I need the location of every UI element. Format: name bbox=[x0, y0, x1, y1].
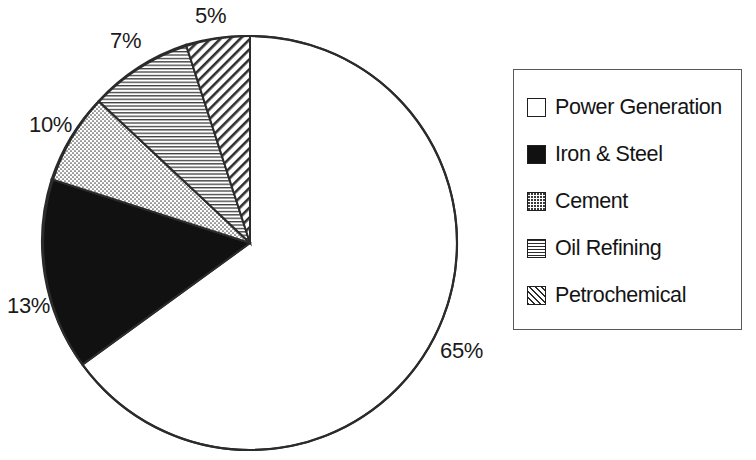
slice-label-oil-refining: 7% bbox=[110, 28, 141, 54]
pie-chart-figure: 5% 7% 10% 13% 65% Power Generation Iron … bbox=[0, 0, 756, 460]
legend-swatch-cement-icon bbox=[527, 192, 546, 211]
legend-swatch-iron-steel-icon bbox=[527, 145, 546, 164]
legend-item-cement[interactable]: Cement bbox=[527, 178, 741, 225]
legend-item-iron-steel[interactable]: Iron & Steel bbox=[527, 131, 741, 178]
legend-swatch-oil-refining-icon bbox=[527, 239, 546, 258]
legend-label-iron-steel: Iron & Steel bbox=[555, 142, 663, 167]
legend-label-petrochemical: Petrochemical bbox=[555, 283, 686, 308]
legend-item-list: Power Generation Iron & Steel Cement Oil… bbox=[514, 70, 741, 329]
legend-label-power-generation: Power Generation bbox=[555, 95, 722, 120]
legend-label-cement: Cement bbox=[555, 189, 628, 214]
legend: Power Generation Iron & Steel Cement Oil… bbox=[513, 69, 742, 330]
legend-swatch-power-generation-icon bbox=[527, 98, 546, 117]
slice-label-petrochemical: 5% bbox=[195, 3, 226, 29]
legend-item-petrochemical[interactable]: Petrochemical bbox=[527, 272, 741, 319]
legend-item-power-generation[interactable]: Power Generation bbox=[527, 84, 741, 131]
slice-label-cement: 10% bbox=[29, 112, 72, 138]
legend-item-oil-refining[interactable]: Oil Refining bbox=[527, 225, 741, 272]
slice-label-power-generation: 65% bbox=[440, 338, 483, 364]
legend-label-oil-refining: Oil Refining bbox=[555, 236, 661, 261]
legend-swatch-petrochemical-icon bbox=[527, 286, 546, 305]
slice-label-iron-steel: 13% bbox=[7, 293, 50, 319]
